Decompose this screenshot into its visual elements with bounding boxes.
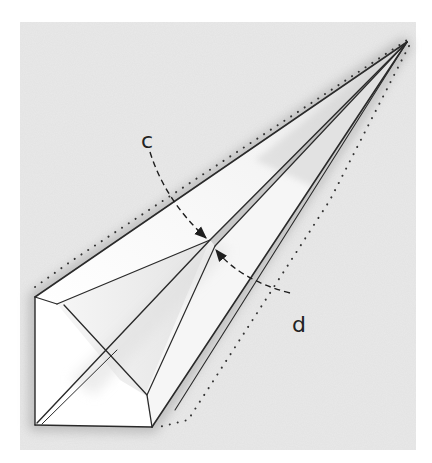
origami-diagram: c d bbox=[0, 0, 432, 463]
label-d: d bbox=[292, 312, 306, 337]
label-c: c bbox=[141, 128, 153, 153]
